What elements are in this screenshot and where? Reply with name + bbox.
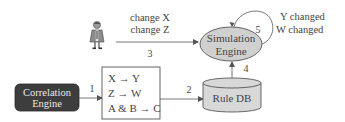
person-icon (90, 21, 104, 49)
rule-db-node: Rule DB (203, 78, 261, 112)
rule-1: X → Y (108, 72, 140, 84)
edge-3-annotation-line2: change Z (131, 24, 170, 35)
edge-2: 2 (160, 84, 203, 99)
rule-2: Z → W (108, 87, 142, 99)
correlation-engine-node: Correlation Engine (15, 84, 79, 111)
correlation-engine-label-line1: Correlation (23, 87, 72, 98)
edge-5-annotation-line2: W changed (276, 24, 324, 35)
edge-3-annotation-line1: change X (130, 12, 170, 23)
rule-3: A & B → C (108, 102, 161, 114)
rules-box-node: X → Y Z → W A & B → C (102, 67, 161, 119)
simulation-engine-label-line2: Engine (215, 45, 246, 57)
correlation-engine-label-line2: Engine (32, 98, 62, 109)
edge-1-label: 1 (90, 83, 95, 94)
edge-2-label: 2 (187, 84, 192, 95)
edge-3-label: 3 (148, 48, 153, 59)
edge-4: 4 (232, 62, 249, 78)
edge-1: 1 (79, 83, 102, 98)
rule-db-label: Rule DB (213, 92, 252, 104)
simulation-engine-node: Simulation Engine (200, 27, 262, 61)
edge-5-label: 5 (256, 24, 261, 35)
edge-5-annotation-line1: Y changed (280, 11, 326, 22)
edge-4-label: 4 (244, 63, 249, 74)
workflow-diagram: change X change Z 3 5 Y changed W change… (0, 0, 345, 122)
edge-3: change X change Z 3 (116, 12, 198, 59)
simulation-engine-label-line1: Simulation (207, 32, 256, 44)
